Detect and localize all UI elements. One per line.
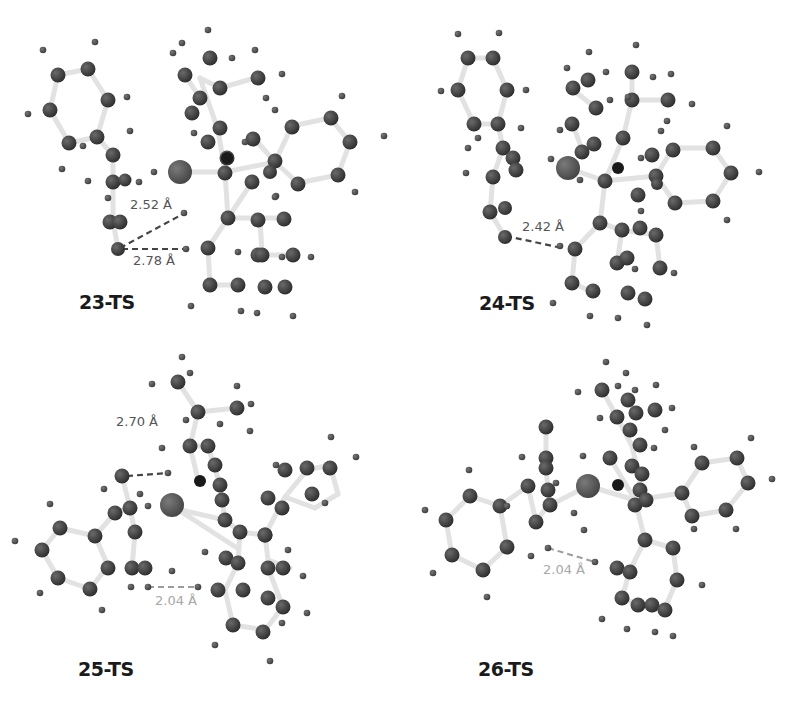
distance-label-23-ts-1: 2.52 Å xyxy=(130,197,172,212)
panel-label-25-ts: 25-TS xyxy=(78,658,134,680)
distance-label-26-ts-1: 2.04 Å xyxy=(543,562,585,577)
distance-label-25-ts-1: 2.70 Å xyxy=(116,414,158,429)
molecule-drawings xyxy=(0,0,787,704)
molecule-26-TS xyxy=(422,359,776,640)
distance-label-23-ts-2: 2.78 Å xyxy=(133,253,175,268)
distance-label-25-ts-2: 2.04 Å xyxy=(155,593,197,608)
figure-transition-states: 23-TS 2.52 Å 2.78 Å 24-TS 2.42 Å 25-TS 2… xyxy=(0,0,787,704)
molecule-25-TS xyxy=(12,354,360,665)
panel-label-26-ts: 26-TS xyxy=(478,658,534,680)
molecule-23-TS xyxy=(25,27,388,320)
panel-label-23-ts: 23-TS xyxy=(79,291,135,313)
molecule-24-TS xyxy=(438,30,763,329)
panel-label-24-ts: 24-TS xyxy=(479,292,535,314)
distance-label-24-ts-1: 2.42 Å xyxy=(522,219,564,234)
